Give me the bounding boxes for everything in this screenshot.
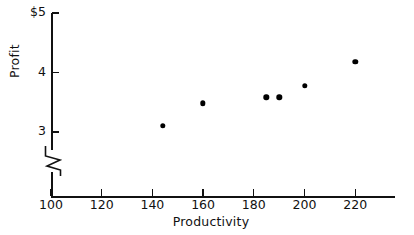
x-axis-tick-label: 100 <box>39 199 63 212</box>
y-axis-tick-label: 3 <box>0 125 46 138</box>
x-axis-tick-label: 220 <box>343 199 367 212</box>
x-axis-title: Productivity <box>0 214 414 229</box>
x-axis-tick-label: 160 <box>191 199 215 212</box>
data-point <box>264 95 269 100</box>
data-point <box>160 123 165 128</box>
y-axis-break-icon <box>44 146 62 176</box>
y-axis-tick <box>52 72 59 73</box>
x-axis-tick <box>50 189 51 196</box>
x-axis-tick <box>202 189 203 196</box>
x-axis-tick-label: 200 <box>293 199 317 212</box>
data-point <box>276 95 281 100</box>
x-axis-tick <box>101 189 102 196</box>
y-axis-tick <box>52 131 59 132</box>
x-axis-title-text: Productivity <box>173 214 250 229</box>
y-axis-tick-label: $5 <box>0 6 46 19</box>
scatter-plot-figure: 34$5 100120140160180200220 Profit Produc… <box>0 0 414 235</box>
x-axis-tick <box>253 189 254 196</box>
x-axis-tick <box>152 189 153 196</box>
data-point <box>352 59 357 64</box>
data-point <box>200 101 205 106</box>
data-point <box>302 83 307 88</box>
y-axis-title: Profit <box>7 44 22 78</box>
x-axis-tick-label: 180 <box>242 199 266 212</box>
x-axis-tick-label: 140 <box>140 199 164 212</box>
y-axis-line-upper <box>51 13 53 150</box>
x-axis-tick <box>355 189 356 196</box>
y-axis-tick <box>52 12 59 13</box>
x-axis-tick <box>304 189 305 196</box>
x-axis-tick-label: 120 <box>90 199 114 212</box>
